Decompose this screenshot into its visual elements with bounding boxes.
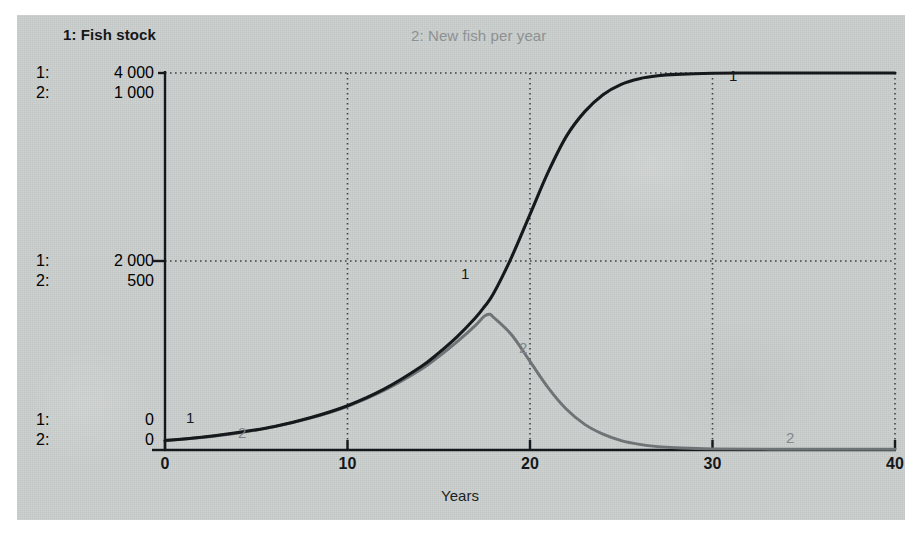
curve-tag-2-middle: 2 xyxy=(519,339,527,356)
chart-page: 1: Fish stock 2: New fish per year 1: 4 … xyxy=(0,0,920,537)
curve-tag-2-right: 2 xyxy=(786,429,794,446)
curve-tag-1-middle: 1 xyxy=(461,265,469,282)
x-tick-label-10: 10 xyxy=(328,455,368,473)
plot-svg xyxy=(0,0,920,537)
x-tick-label-30: 30 xyxy=(693,455,733,473)
curve-tag-2-left: 2 xyxy=(238,424,246,441)
curve-tag-1-left: 1 xyxy=(186,409,194,426)
x-tick-label-0: 0 xyxy=(145,455,185,473)
x-axis-title: Years xyxy=(0,487,920,504)
curve-tag-1-right: 1 xyxy=(729,67,737,84)
x-tick-label-40: 40 xyxy=(875,455,915,473)
x-tick-label-20: 20 xyxy=(510,455,550,473)
